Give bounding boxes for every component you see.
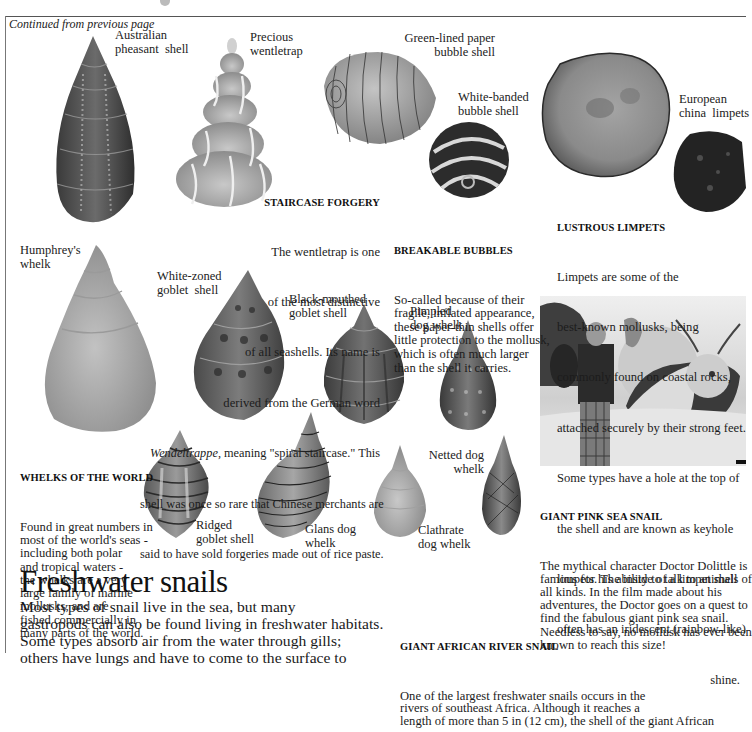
caption-line: of all seashells. Its name is <box>140 346 380 360</box>
top-ornament <box>160 0 170 6</box>
caption-line: attached securely by their strong feet. <box>557 422 746 436</box>
label-humphreys-whelk: Humphrey's whelk <box>20 243 81 272</box>
label-netted-dog-whelk: Netted dog whelk <box>420 448 484 477</box>
caption-giant-african-river-snail: GIANT AFRICAN RIVER SNAIL One of the lar… <box>400 604 714 732</box>
caption-line: Wendeltrappe, meaning "spiral staircase.… <box>140 447 380 461</box>
caption-line: best-known mollusks, being <box>557 321 746 335</box>
caption-line: The wentletrap is one <box>140 246 380 260</box>
label-clathrate-dog-whelk: Clathrate dog whelk <box>418 523 470 552</box>
caption-line: of the most distinctive <box>140 296 380 310</box>
section-title: Freshwater snails <box>20 566 228 597</box>
caption-heading: GIANT PINK SEA SNAIL <box>540 511 752 523</box>
caption-body: So-called because of their fragile, infl… <box>394 294 550 376</box>
label-european-china-limpets: European china limpets <box>679 92 749 121</box>
caption-heading: BREAKABLE BUBBLES <box>394 245 550 257</box>
label-green-lined-paper-bubble-shell: Green-lined paper bubble shell <box>400 31 495 60</box>
caption-staircase-forgery: STAIRCASE FORGERY The wentletrap is one … <box>140 160 380 580</box>
page-frame-left-rule <box>5 16 6 653</box>
caption-breakable-bubbles: BREAKABLE BUBBLES So-called because of t… <box>394 208 550 394</box>
caption-line: derived from the German word <box>140 397 380 411</box>
european-china-limpet-large-image <box>540 50 672 180</box>
section-intro: Most types of snail live in the sea, but… <box>20 598 383 666</box>
caption-body: One of the largest freshwater snails occ… <box>400 690 714 728</box>
caption-heading: GIANT AFRICAN RIVER SNAIL <box>400 641 714 653</box>
caption-line: shell was once so rare that Chinese merc… <box>140 498 380 512</box>
australian-pheasant-shell-image <box>45 34 145 224</box>
label-white-banded-bubble-shell: White-banded bubble shell <box>458 90 529 119</box>
caption-line: said to have sold forgeries made out of … <box>140 548 380 562</box>
label-australian-pheasant-shell: Australian pheasant shell <box>115 28 189 57</box>
white-banded-bubble-shell-image <box>428 120 510 200</box>
green-lined-paper-bubble-shell-image <box>320 48 440 148</box>
netted-dog-whelk-image <box>480 433 524 537</box>
label-precious-wentletrap: Precious wentletrap <box>250 30 303 59</box>
caption-heading: WHELKS OF THE WORLD <box>20 472 153 484</box>
caption-heading: LUSTROUS LIMPETS <box>557 222 746 234</box>
caption-line: commonly found on coastal rocks, <box>557 371 746 385</box>
caption-heading: STAIRCASE FORGERY <box>140 197 380 209</box>
caption-line: Limpets are some of the <box>557 271 746 285</box>
